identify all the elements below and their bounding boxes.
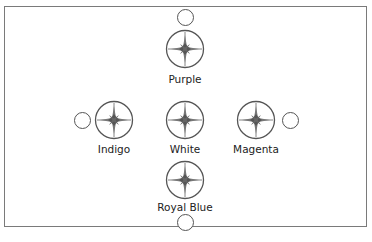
node-label-white: White (145, 143, 225, 155)
connector-circle-bottom (177, 214, 194, 231)
connector-circle-right (282, 112, 299, 129)
compass-node-indigo (94, 100, 134, 140)
compass-node-royal-blue (165, 160, 205, 200)
compass-node-magenta (236, 100, 276, 140)
compass-star-icon (165, 29, 205, 69)
node-label-magenta: Magenta (216, 143, 296, 155)
connector-circle-left (74, 112, 91, 129)
compass-node-purple (165, 29, 205, 69)
compass-star-icon (94, 100, 134, 140)
node-label-royal-blue: Royal Blue (145, 201, 225, 213)
node-label-indigo: Indigo (74, 143, 154, 155)
compass-star-icon (165, 100, 205, 140)
connector-circle-top (177, 9, 194, 26)
compass-node-white (165, 100, 205, 140)
compass-star-icon (165, 160, 205, 200)
node-label-purple: Purple (145, 73, 225, 85)
compass-star-icon (236, 100, 276, 140)
